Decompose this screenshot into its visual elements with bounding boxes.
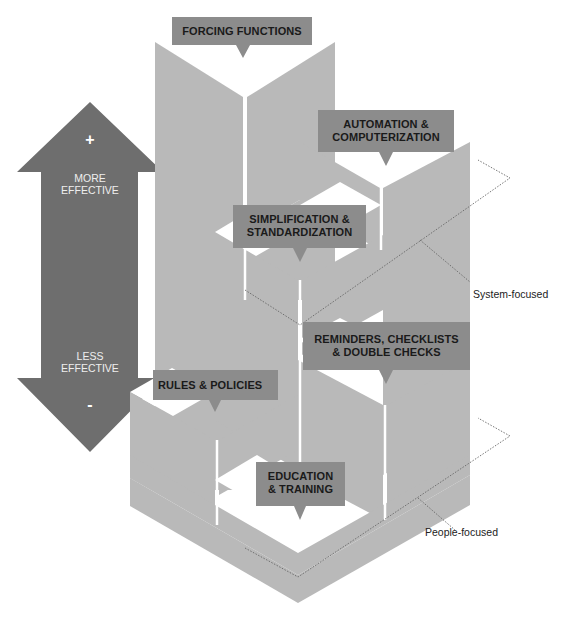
more-effective-label: MORE EFFECTIVE xyxy=(40,172,140,196)
level-automation-line2: COMPUTERIZATION xyxy=(318,131,454,144)
level-rules-policies: RULES & POLICIES xyxy=(153,379,278,392)
level-reminders-line2: & DOUBLE CHECKS xyxy=(303,346,470,359)
level-automation-line1: AUTOMATION & xyxy=(318,118,454,131)
less-effective-label: LESS EFFECTIVE xyxy=(40,350,140,374)
level-education-line1: EDUCATION xyxy=(256,470,345,483)
minus-sign: - xyxy=(75,396,105,414)
level-simplification: SIMPLIFICATION & STANDARDIZATION xyxy=(233,213,366,239)
people-focused-label: People-focused xyxy=(425,526,498,538)
system-focused-label: System-focused xyxy=(473,288,548,300)
level-automation: AUTOMATION & COMPUTERIZATION xyxy=(318,118,454,144)
effective-label-bottom: EFFECTIVE xyxy=(40,362,140,374)
effective-label-top: EFFECTIVE xyxy=(40,184,140,196)
less-label: LESS xyxy=(40,350,140,362)
level-education: EDUCATION & TRAINING xyxy=(256,470,345,496)
diagram-canvas xyxy=(0,0,572,617)
level-reminders-line1: REMINDERS, CHECKLISTS xyxy=(303,333,470,346)
plus-sign: + xyxy=(75,131,105,149)
level-simplification-line2: STANDARDIZATION xyxy=(233,226,366,239)
more-label: MORE xyxy=(40,172,140,184)
level-reminders: REMINDERS, CHECKLISTS & DOUBLE CHECKS xyxy=(303,333,470,359)
level-forcing-functions: FORCING FUNCTIONS xyxy=(172,25,312,38)
level-education-line2: & TRAINING xyxy=(256,483,345,496)
level-simplification-line1: SIMPLIFICATION & xyxy=(233,213,366,226)
